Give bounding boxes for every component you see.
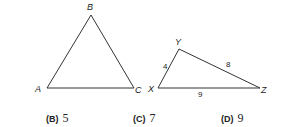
triangle-abc [47,15,134,88]
triangle-figure: A B C X Y Z 4 8 9 [0,0,285,127]
choice-c-value: 7 [150,111,156,125]
triangle-xyz [158,49,260,88]
vertex-label-c: C [135,85,142,95]
choice-d: (D)9 [221,111,244,126]
vertex-label-y: Y [175,37,182,47]
choice-b-value: 5 [63,111,69,125]
vertex-label-b: B [87,2,93,12]
side-label-xz: 9 [198,90,203,99]
choice-c: (C)7 [133,111,156,126]
side-label-xy: 4 [163,62,168,71]
choice-d-value: 9 [238,111,244,125]
choice-b: (B)5 [46,111,69,126]
choice-c-letter: (C) [133,114,146,124]
vertex-label-x: X [147,84,155,94]
side-label-yz: 8 [226,60,231,69]
choice-b-letter: (B) [46,114,59,124]
choice-d-letter: (D) [221,114,234,124]
vertex-label-a: A [34,84,41,94]
vertex-label-z: Z [260,85,267,95]
